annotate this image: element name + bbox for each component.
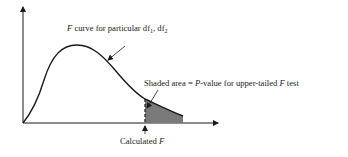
f-distribution-diagram: F curve for particular df1, df2 Shaded a… (0, 0, 348, 157)
curve-label-arrow (108, 46, 125, 60)
calculated-f-label: Calculated F (120, 136, 165, 146)
shaded-area-label: Shaded area = P-value for upper-tailed F… (144, 78, 299, 88)
curve-label: F curve for particular df1, df2 (66, 23, 168, 34)
